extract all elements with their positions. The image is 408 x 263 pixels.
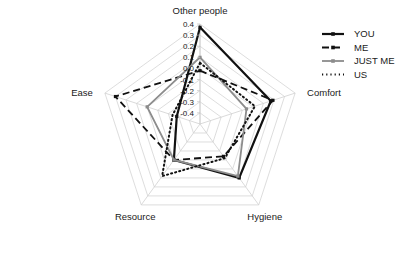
- axis-label-hygiene: Hygiene: [247, 211, 282, 222]
- series-marker: [146, 105, 149, 108]
- axis-label-ease: Ease: [71, 87, 93, 98]
- legend-label-me[interactable]: ME: [354, 42, 368, 53]
- series-marker: [198, 26, 201, 29]
- series-marker: [245, 107, 248, 110]
- legend-label-you[interactable]: YOU: [354, 28, 375, 39]
- legend: YOUMEJUST MEUS: [322, 28, 394, 80]
- series-marker: [114, 95, 117, 98]
- legend-label-us[interactable]: US: [354, 69, 367, 80]
- legend-marker: [331, 59, 335, 63]
- tick-label: -0.2: [180, 87, 194, 96]
- axis-label-resource: Resource: [115, 211, 156, 222]
- series-marker: [271, 99, 274, 102]
- tick-label: -0.3: [180, 98, 194, 107]
- tick-label: 0.1: [183, 53, 195, 62]
- tick-label: -0.4: [180, 109, 194, 118]
- radar-chart-svg: 0.40.30.20.10.0-0.1-0.2-0.3-0.4 Other pe…: [0, 0, 408, 263]
- series-marker: [175, 115, 178, 118]
- tick-label: 0.0: [183, 64, 195, 73]
- tick-label: 0.3: [183, 31, 195, 40]
- tick-label: -0.1: [180, 76, 194, 85]
- axis-label-comfort: Comfort: [307, 87, 341, 98]
- tick-label: 0.4: [183, 20, 195, 29]
- axis-label-other-people: Other people: [173, 5, 228, 16]
- series-marker: [198, 69, 201, 72]
- legend-marker: [331, 32, 335, 36]
- series-marker: [172, 158, 175, 161]
- legend-label-just-me[interactable]: JUST ME: [354, 55, 394, 66]
- series-marker: [236, 175, 239, 178]
- legend-marker: [331, 46, 335, 50]
- axis-spoke: [200, 124, 259, 205]
- radar-chart-figure: 0.40.30.20.10.0-0.1-0.2-0.3-0.4 Other pe…: [0, 0, 408, 263]
- tick-label: 0.2: [183, 42, 195, 51]
